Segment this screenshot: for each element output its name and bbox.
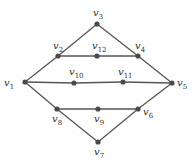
vertex-label-v3: v3 bbox=[93, 7, 103, 21]
vertex-label-v1: v1 bbox=[4, 77, 14, 91]
vertex-label-v2: v2 bbox=[53, 40, 63, 54]
edge-v4-v5 bbox=[138, 56, 172, 83]
edge-v11-v5 bbox=[123, 82, 172, 83]
edge-v1-v2 bbox=[25, 56, 58, 82]
edge-layer bbox=[25, 24, 172, 142]
vertex-v7 bbox=[95, 139, 100, 144]
vertex-v4 bbox=[135, 53, 140, 58]
vertex-label-v4: v4 bbox=[135, 40, 146, 54]
vertex-v9 bbox=[95, 106, 100, 111]
vertex-v10 bbox=[71, 80, 76, 85]
edge-v10-v11 bbox=[74, 82, 123, 83]
vertex-label-v6: v6 bbox=[143, 106, 154, 120]
vertex-label-v5: v5 bbox=[177, 77, 187, 91]
vertex-label-v9: v9 bbox=[94, 113, 104, 127]
vertex-label-v12: v12 bbox=[92, 40, 107, 54]
vertex-v8 bbox=[54, 106, 59, 111]
edge-v1-v8 bbox=[25, 82, 57, 109]
vertex-label-v8: v8 bbox=[52, 113, 62, 127]
graph-diagram: v1v2v3v4v5v6v7v8v9v10v11v12 bbox=[0, 0, 194, 161]
vertex-v11 bbox=[120, 79, 125, 84]
vertex-label-v7: v7 bbox=[94, 146, 104, 160]
vertex-v12 bbox=[94, 53, 99, 58]
vertex-v6 bbox=[135, 106, 140, 111]
vertex-v1 bbox=[22, 79, 27, 84]
label-layer: v1v2v3v4v5v6v7v8v9v10v11v12 bbox=[4, 7, 187, 160]
vertex-v2 bbox=[55, 53, 60, 58]
edge-v1-v10 bbox=[25, 82, 74, 83]
vertex-label-v10: v10 bbox=[69, 66, 84, 80]
edge-v8-v7 bbox=[57, 109, 98, 142]
vertex-v3 bbox=[94, 21, 99, 26]
vertex-label-v11: v11 bbox=[118, 66, 133, 80]
vertex-v5 bbox=[169, 80, 174, 85]
